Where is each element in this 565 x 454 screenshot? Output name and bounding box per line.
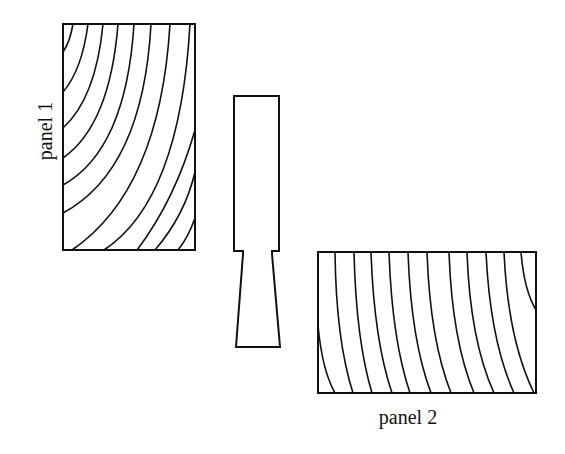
connector-key bbox=[234, 96, 280, 347]
panel-1: panel 1 bbox=[34, 24, 195, 250]
panel-2-outline bbox=[318, 252, 536, 393]
diagram-canvas: panel 1 panel 2 bbox=[0, 0, 565, 454]
panel-2: panel 2 bbox=[318, 252, 536, 429]
panel-2-label: panel 2 bbox=[379, 406, 437, 429]
panel-1-label: panel 1 bbox=[34, 102, 57, 160]
